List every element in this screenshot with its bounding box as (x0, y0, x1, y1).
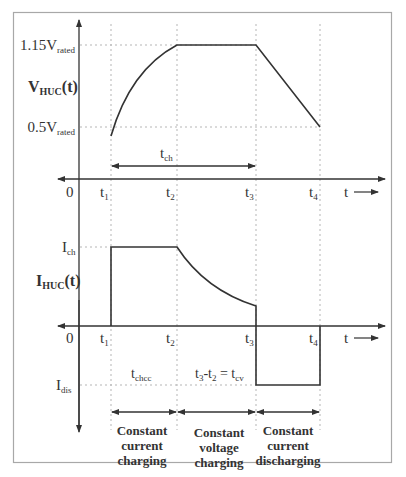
idis-level-label: Idis (56, 377, 72, 395)
origin-label-top: 0 (66, 184, 74, 200)
current-axis-label: IHUC(t) (36, 272, 80, 291)
t4-label-top: t4 (309, 184, 318, 202)
voltage-curve (111, 45, 320, 136)
level-label-0-5v: 0.5Vrated (27, 119, 75, 137)
guide-lines (80, 24, 320, 430)
tch-label: tch (160, 145, 173, 163)
svg-text:current: current (267, 438, 309, 453)
svg-text:discharging: discharging (255, 453, 321, 468)
t1-label-bottom: t1 (100, 330, 109, 348)
t3-label-top: t3 (245, 184, 254, 202)
time-label-top: t (344, 184, 349, 200)
svg-text:charging: charging (117, 453, 167, 468)
level-label-1-15v: 1.15Vrated (20, 37, 76, 55)
current-curve (111, 247, 320, 385)
t2-label-bottom: t2 (166, 330, 175, 348)
svg-text:Constant: Constant (194, 425, 245, 440)
voltage-axis-label: VHUC(t) (28, 78, 78, 97)
tcv-label: t3-t2 = tcv (195, 366, 244, 383)
svg-text:charging: charging (194, 455, 244, 470)
charging-profile-diagram: 1.15Vrated VHUC(t) 0.5Vrated tch 0 t1 t2… (0, 0, 406, 477)
svg-text:Constant: Constant (117, 423, 168, 438)
phase-cc-discharging: Constant current discharging (255, 423, 321, 468)
t1-label-top: t1 (100, 184, 109, 202)
t3-label-bottom: t3 (245, 330, 254, 348)
origin-label-bottom: 0 (66, 330, 74, 346)
svg-text:current: current (121, 438, 163, 453)
phase-cc-charging: Constant current charging (117, 423, 168, 468)
phase-cv-charging: Constant voltage charging (194, 425, 245, 470)
tchcc-label: tchcc (131, 366, 151, 383)
svg-text:Constant: Constant (263, 423, 314, 438)
time-label-bottom: t (344, 330, 349, 346)
t4-label-bottom: t4 (309, 330, 318, 348)
svg-text:voltage: voltage (199, 440, 239, 455)
t2-label-top: t2 (166, 184, 175, 202)
ich-level-label: Ich (62, 239, 76, 257)
